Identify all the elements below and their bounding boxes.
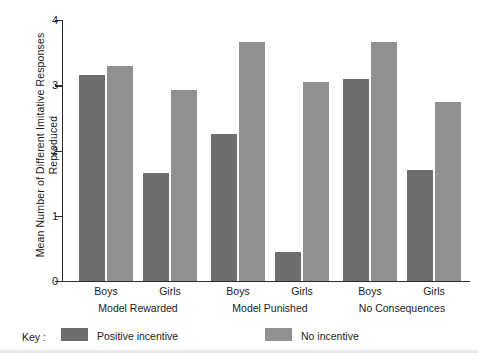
x-subcategory-label: Boys [79, 285, 133, 297]
legend-label: No incentive [301, 330, 359, 342]
chart-legend: Key : Positive incentiveNo incentive [22, 327, 462, 349]
x-subcategory-label: Girls [275, 285, 329, 297]
bar [239, 42, 265, 281]
bar [275, 252, 301, 281]
legend-swatch [61, 328, 88, 341]
x-subcategory-label: Boys [211, 285, 265, 297]
x-subcategory-label: Girls [407, 285, 461, 297]
bar [371, 42, 397, 281]
y-axis-title: Mean Number of Different Imitative Respo… [0, 0, 44, 290]
y-tick-label: 4 [52, 14, 58, 26]
x-group-label: Model Punished [197, 302, 343, 314]
bar [343, 79, 369, 281]
x-group-label: Model Rewarded [65, 302, 211, 314]
bar [143, 173, 169, 281]
bar [407, 170, 433, 281]
x-subcategory-label: Girls [143, 285, 197, 297]
bar [435, 102, 461, 281]
y-tick-label: 0 [52, 275, 58, 287]
bar [171, 90, 197, 281]
x-group-label: No Consequences [329, 302, 475, 314]
bar [303, 82, 329, 281]
y-tick-label: 3 [52, 79, 58, 91]
bar-chart-figure: Mean Number of Different Imitative Respo… [0, 0, 478, 353]
bar [107, 66, 133, 281]
y-tick-label: 1 [52, 210, 58, 222]
bar [211, 134, 237, 281]
y-tick-label: 2 [52, 145, 58, 157]
legend-key-label: Key : [22, 331, 46, 343]
y-axis-line [62, 20, 63, 282]
x-axis-line [56, 281, 470, 282]
legend-label: Positive incentive [97, 330, 178, 342]
x-subcategory-label: Boys [343, 285, 397, 297]
y-axis-title-line1: Mean Number of Different Imitative Respo… [34, 33, 46, 258]
legend-swatch [265, 328, 292, 341]
plot-area: 01234 [62, 20, 466, 282]
bar [79, 75, 105, 281]
x-axis-labels: BoysGirlsBoysGirlsBoysGirlsModel Rewarde… [62, 285, 466, 325]
